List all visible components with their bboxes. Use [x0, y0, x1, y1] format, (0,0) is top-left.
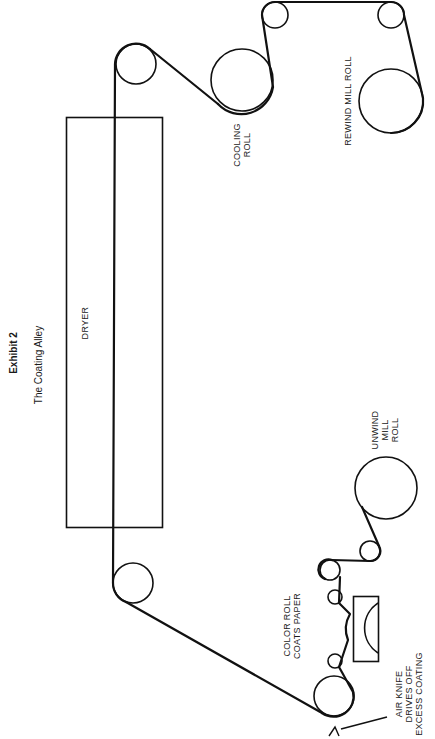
web-wrap-dryer-bottom — [113, 583, 126, 602]
web-to-rewind — [404, 15, 423, 98]
color-roll — [365, 603, 378, 653]
exhibit-title: The Coating Alley — [33, 326, 44, 404]
unwind-mill-roll-label: UNWIND MILL ROLL — [370, 411, 400, 450]
web-to-cooling — [150, 49, 218, 104]
web-to-entry-roll — [339, 577, 340, 603]
web-wrap-top-roll — [115, 44, 150, 64]
cooling-roll — [211, 49, 273, 111]
dryer-label: DRYER — [80, 307, 90, 340]
web-through-dryer — [113, 64, 115, 583]
web-wrap-top-guide-left — [262, 2, 275, 15]
rewind-mill-roll-label: REWIND MILL ROLL — [343, 56, 353, 145]
unwind-label-line2: MILL — [380, 411, 390, 450]
air-knife-label-line3: EXCESS COATING — [414, 652, 424, 736]
air-knife-label-line2: DRIVES OFF — [404, 652, 414, 736]
web-entry-to-guide — [332, 560, 370, 561]
web-wrap-rewind — [391, 98, 423, 133]
web-to-unwind — [362, 507, 379, 546]
unwind-label-line3: ROLL — [390, 411, 400, 450]
air-knife-icon — [329, 727, 339, 736]
exhibit-number: Exhibit 2 — [8, 332, 19, 374]
web-wrap-air-knife-roll — [322, 692, 354, 717]
color-roll-label: COLOR ROLL COATS PAPER — [282, 593, 302, 659]
unwind-label-line1: UNWIND — [370, 411, 380, 450]
cooling-roll-label-line1: COOLING — [232, 123, 242, 167]
air-knife-label: AIR KNIFE DRIVES OFF EXCESS COATING — [394, 652, 424, 736]
coating-alley-diagram — [0, 0, 435, 739]
color-roll-label-line1: COLOR ROLL — [282, 593, 292, 659]
web-wrap-top-guide-right — [391, 2, 404, 15]
web-to-small-roll-bottom — [339, 667, 353, 692]
color-roll-label-line2: COATS PAPER — [292, 593, 302, 659]
cooling-roll-label-line2: ROLL — [242, 123, 252, 167]
air-knife-pointer — [341, 717, 387, 729]
air-knife-label-line1: AIR KNIFE — [394, 652, 404, 736]
cooling-roll-label: COOLING ROLL — [232, 123, 252, 167]
